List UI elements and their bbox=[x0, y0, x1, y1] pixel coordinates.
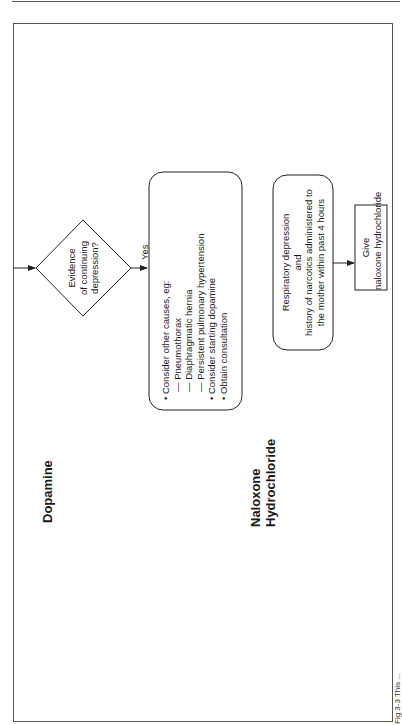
dopamine-label-text: Dopamine bbox=[40, 460, 55, 523]
action-line-2: naloxone hydrochloride bbox=[372, 205, 384, 290]
list-item: • Obtain consultation bbox=[218, 234, 230, 400]
naloxone-label-line-1: Naloxone bbox=[248, 439, 263, 527]
naloxone-condition-text: Respiratory depression and history of na… bbox=[280, 180, 326, 345]
condition-line-4: the mother within past 4 hours bbox=[315, 180, 327, 345]
yes-label-text: Yes bbox=[139, 245, 150, 261]
condition-line-1: Respiratory depression bbox=[280, 180, 292, 345]
figure-caption: Fig 3-3 This ... bbox=[393, 673, 402, 724]
yes-label: Yes bbox=[139, 245, 151, 261]
caption-text: Fig 3-3 This ... bbox=[393, 673, 402, 724]
section-label-naloxone: Naloxone Hydrochloride bbox=[248, 439, 278, 527]
list-item: — Persistent pulmonary hypertension bbox=[195, 234, 207, 400]
dopamine-action-list: • Consider other causes, eg: — Pneumotho… bbox=[160, 234, 229, 400]
section-label-dopamine: Dopamine bbox=[40, 460, 55, 523]
decision-line-3: depression? bbox=[89, 232, 101, 304]
list-item: — Pneumothorax bbox=[172, 234, 184, 400]
condition-line-3: history of narcotics administered to bbox=[303, 180, 315, 345]
list-item: • Consider starting dopamine bbox=[206, 234, 218, 400]
naloxone-action-text: Give naloxone hydrochloride bbox=[360, 205, 383, 290]
list-item: — Diaphragmatic hernia bbox=[183, 234, 195, 400]
decision-line-2: of continuing bbox=[78, 232, 90, 304]
action-line-1: Give bbox=[360, 205, 372, 290]
naloxone-label-line-2: Hydrochloride bbox=[263, 439, 278, 527]
list-item: • Consider other causes, eg: bbox=[160, 234, 172, 400]
condition-line-2: and bbox=[292, 180, 304, 345]
decision-line-1: Evidence bbox=[66, 232, 78, 304]
decision-text: Evidence of continuing depression? bbox=[66, 232, 101, 304]
